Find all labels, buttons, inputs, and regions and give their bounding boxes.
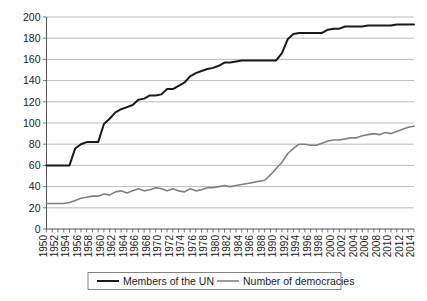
x-tick-label: 1970	[152, 235, 163, 258]
y-tick-label: 120	[23, 96, 41, 108]
y-tick-label: 180	[23, 32, 41, 44]
x-tick-label: 1966	[129, 235, 140, 258]
x-tick-label: 2014	[405, 235, 416, 258]
x-axis-tick-marks	[47, 229, 415, 233]
x-tick-label: 1964	[118, 235, 129, 258]
x-tick-label: 1994	[290, 235, 301, 258]
x-tick-label: 1950	[38, 235, 49, 258]
x-tick-label: 1996	[302, 235, 313, 258]
y-tick-label: 0	[35, 223, 41, 235]
x-tick-label: 2000	[325, 235, 336, 258]
x-tick-label: 1958	[83, 235, 94, 258]
x-tick-label: 2010	[382, 235, 393, 258]
x-tick-label: 1984	[233, 235, 244, 258]
y-tick-label: 40	[29, 180, 41, 192]
y-tick-label: 200	[23, 11, 41, 23]
gridlines	[47, 17, 415, 208]
y-tick-label: 100	[23, 117, 41, 129]
x-tick-label: 1986	[244, 235, 255, 258]
x-tick-label: 1968	[141, 235, 152, 258]
x-tick-label: 1982	[221, 235, 232, 258]
x-tick-label: 1976	[187, 235, 198, 258]
x-tick-label: 1962	[106, 235, 117, 258]
x-tick-label: 1980	[210, 235, 221, 258]
x-axis-labels: 1950195219541956195819601962196419661968…	[38, 235, 417, 258]
x-tick-label: 1954	[60, 235, 71, 258]
x-tick-label: 1974	[175, 235, 186, 258]
chart-legend: Members of the UNNumber of democracies	[88, 273, 354, 290]
x-tick-label: 1978	[198, 235, 209, 258]
x-tick-label: 2008	[371, 235, 382, 258]
x-tick-label: 1960	[95, 235, 106, 258]
x-tick-label: 1988	[256, 235, 267, 258]
x-tick-label: 1972	[164, 235, 175, 258]
data-series	[47, 24, 415, 203]
x-tick-label: 1952	[49, 235, 60, 258]
x-tick-label: 1998	[313, 235, 324, 258]
x-tick-label: 1992	[279, 235, 290, 258]
x-tick-label: 2006	[359, 235, 370, 258]
y-tick-label: 20	[29, 202, 41, 214]
legend-label-members-of-the-un: Members of the UN	[123, 275, 214, 287]
x-tick-label: 1956	[72, 235, 83, 258]
y-tick-label: 60	[29, 159, 41, 171]
y-tick-label: 140	[23, 74, 41, 86]
y-tick-label: 160	[23, 53, 41, 65]
legend-label-number-of-democracies: Number of democracies	[243, 275, 354, 287]
x-tick-label: 2012	[394, 235, 405, 258]
chart-container: 0204060801001201401601802001950195219541…	[0, 0, 427, 301]
x-tick-label: 1990	[267, 235, 278, 258]
line-chart: 0204060801001201401601802001950195219541…	[0, 0, 427, 301]
y-axis-ticks: 020406080100120140160180200	[23, 11, 47, 235]
y-tick-label: 80	[29, 138, 41, 150]
series-line-number-of-democracies	[47, 126, 415, 203]
x-tick-label: 2004	[348, 235, 359, 258]
x-tick-label: 2002	[336, 235, 347, 258]
